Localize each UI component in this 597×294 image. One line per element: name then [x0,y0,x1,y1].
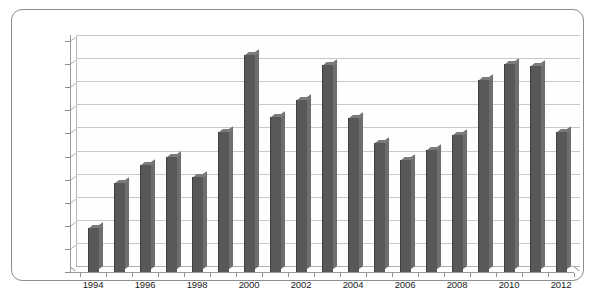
x-axis-tick [392,273,393,277]
bar-front-face [322,65,333,272]
bar [478,80,489,272]
x-axis-label: 1998 [177,279,217,290]
bar-side-face [515,58,519,269]
gridline [76,35,580,36]
bar-front-face [88,228,99,272]
x-axis-tick [262,273,263,277]
x-axis-label: 2006 [385,279,425,290]
x-axis-tick [548,273,549,277]
x-axis-label: 2000 [229,279,269,290]
y-axis-tick [65,226,70,227]
x-axis-label: 2012 [541,279,581,290]
bar [400,160,411,272]
x-axis-tick [314,273,315,277]
bar [192,177,203,272]
x-axis-tick [340,273,341,277]
x-axis-tick [418,273,419,277]
x-axis-tick [236,273,237,277]
bar [218,132,229,272]
y-axis-tick [65,180,70,181]
x-axis-tick [184,273,185,277]
bar-front-face [504,64,515,272]
x-axis-tick [522,273,523,277]
bar [530,66,541,272]
y-axis-tick [65,64,70,65]
bar-side-face [281,112,285,269]
plot-area: 050100150200250300350400450500 199419961… [70,35,580,272]
bar [166,157,177,272]
bar-side-face [255,49,259,269]
bar-side-face [99,222,103,269]
bar-front-face [114,183,125,272]
bar-front-face [348,118,359,272]
x-axis-tick [80,273,81,277]
bar [114,183,125,272]
bar [374,143,385,272]
bar [88,228,99,272]
bar-side-face [385,137,389,269]
bar [504,64,515,272]
bar-side-face [307,94,311,269]
x-axis-tick [158,273,159,277]
x-axis-label: 2010 [489,279,529,290]
bar-side-face [463,129,467,269]
bar [244,55,255,272]
x-axis-label: 2008 [437,279,477,290]
bar-front-face [270,117,281,272]
y-axis-tick [65,110,70,111]
bar-side-face [203,172,207,269]
bar-front-face [218,132,229,272]
bar [322,65,333,272]
floor-front-edge [70,272,574,273]
bar-front-face [452,135,463,272]
y-axis-tick [65,133,70,134]
bar [296,100,307,272]
y-axis-line [70,35,71,273]
x-axis-label: 2004 [333,279,373,290]
x-axis-tick [366,273,367,277]
bar-front-face [192,177,203,272]
bar-side-face [151,160,155,269]
bar-front-face [478,80,489,272]
bar [556,132,567,272]
bar-front-face [530,66,541,272]
x-axis-tick [470,273,471,277]
bar-side-face [437,144,441,269]
chart-screenshot: 050100150200250300350400450500 199419961… [0,0,597,294]
bar-side-face [541,61,545,269]
bar-front-face [244,55,255,272]
x-axis-tick [132,273,133,277]
bar-side-face [229,126,233,269]
x-axis-tick [444,273,445,277]
x-axis-label: 1996 [125,279,165,290]
x-axis-label: 1994 [73,279,113,290]
y-axis-tick [65,272,70,273]
bar-front-face [166,157,177,272]
y-axis-tick [65,249,70,250]
bar-front-face [140,165,151,272]
bar-side-face [177,152,181,269]
bar-side-face [489,75,493,269]
x-axis-tick [210,273,211,277]
bar-front-face [426,150,437,272]
bar-side-face [333,59,337,269]
bar-side-face [125,177,129,269]
bar-side-face [359,112,363,269]
gridline [76,58,580,59]
bar-side-face [567,127,571,269]
y-axis-tick [65,157,70,158]
y-axis-tick [65,203,70,204]
bar [270,117,281,272]
bar [426,150,437,272]
y-axis-tick [65,87,70,88]
bar-front-face [296,100,307,272]
bar-front-face [400,160,411,272]
bar-front-face [374,143,385,272]
bar-side-face [411,154,415,269]
x-axis-tick [288,273,289,277]
x-axis-tick [574,273,575,277]
x-axis-tick [496,273,497,277]
y-axis-tick [65,41,70,42]
bar [140,165,151,272]
x-axis-label: 2002 [281,279,321,290]
